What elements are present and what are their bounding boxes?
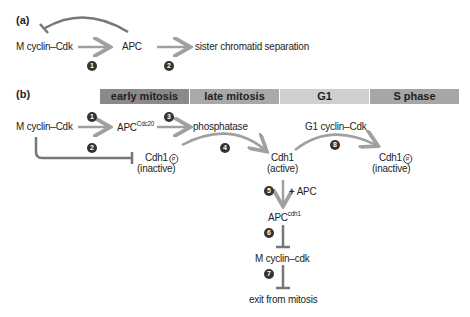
step-5-b: 5	[264, 186, 274, 196]
m-cyclin-cdk-a: M cyclin–Cdk	[16, 40, 73, 52]
apc-text: APC	[268, 211, 288, 223]
step-6-b: 6	[264, 228, 274, 238]
step-2-a: 2	[164, 61, 174, 71]
phase-s: S phase	[370, 89, 459, 104]
apc-sup: Cdc20	[137, 120, 154, 127]
diagram: (a) M cyclin–Cdk APC sister chromatid se…	[0, 0, 470, 317]
phase-g1: G1	[280, 89, 369, 104]
step-2-b: 2	[87, 143, 97, 153]
phosphatase: phosphatase	[193, 120, 248, 132]
sister-chromatid-separation: sister chromatid separation	[195, 40, 309, 52]
step-1-b: 1	[87, 112, 97, 122]
apc-a: APC	[122, 40, 142, 52]
step-7-b: 7	[264, 269, 274, 279]
step-1-a: 1	[87, 61, 97, 71]
step-3-b: 3	[164, 112, 174, 122]
panel-b-label: (b)	[16, 88, 30, 100]
apc-text: APC	[117, 121, 137, 133]
apc-cdc20: APCCdc20	[117, 120, 154, 133]
exit-from-mitosis: exit from mitosis	[249, 293, 317, 305]
g1-cyclin-cdk: G1 cyclin–Cdk	[305, 120, 366, 132]
active-label: (active)	[267, 162, 298, 174]
plus-apc: + APC	[289, 185, 316, 197]
panel-a-label: (a)	[16, 14, 29, 26]
inactive-left: (inactive)	[137, 162, 175, 174]
apc-sup: cdh1	[288, 210, 301, 217]
inactive-right: (inactive)	[372, 162, 410, 174]
step-8-b: 8	[330, 140, 340, 150]
step-4-b: 4	[220, 143, 230, 153]
phase-early-mitosis: early mitosis	[100, 89, 189, 104]
phase-late-mitosis: late mitosis	[190, 89, 279, 104]
m-cyclin-cdk-b: M cyclin–Cdk	[16, 120, 73, 132]
apc-cdh1: APCcdh1	[268, 210, 301, 223]
m-cyclin-cdk-bottom: M cyclin–cdk	[255, 252, 310, 264]
